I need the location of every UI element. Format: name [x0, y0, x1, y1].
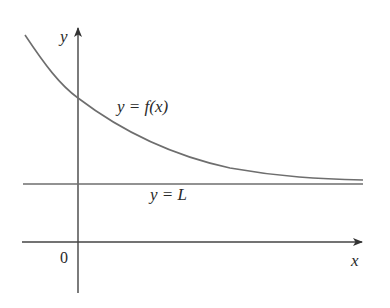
curve-label: y = f(x) — [115, 97, 168, 116]
asymptote-label: y = L — [148, 185, 187, 204]
x-axis-label: x — [350, 251, 359, 270]
function-graph-diagram: y x 0 y = f(x) y = L — [0, 0, 390, 308]
origin-label: 0 — [60, 249, 68, 266]
function-curve — [25, 35, 363, 180]
y-axis-label: y — [58, 27, 68, 46]
